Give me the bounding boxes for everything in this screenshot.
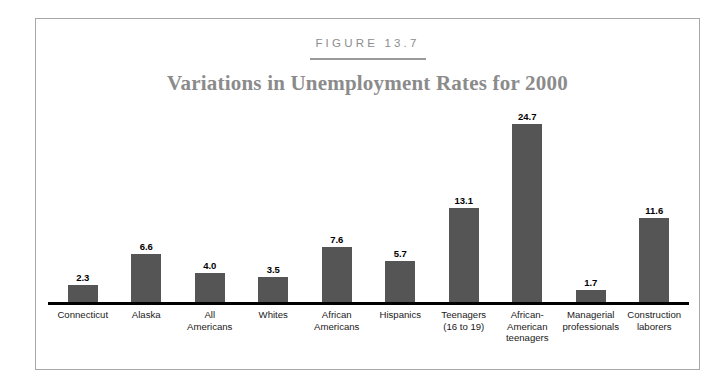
category-label: African- American teenagers bbox=[496, 309, 560, 344]
category-label: Teenagers (16 to 19) bbox=[432, 309, 496, 332]
bar-group: 13.1 bbox=[432, 114, 496, 302]
bar-group: 5.7 bbox=[369, 114, 433, 302]
bar-group: 24.7 bbox=[496, 114, 560, 302]
bar bbox=[68, 285, 98, 302]
bar-value-label: 2.3 bbox=[51, 272, 115, 283]
bar-group: 7.6 bbox=[305, 114, 369, 302]
bar bbox=[385, 261, 415, 302]
bar-value-label: 7.6 bbox=[305, 234, 369, 245]
figure-number-label: FIGURE 13.7 bbox=[36, 37, 699, 49]
category-label: Construction laborers bbox=[623, 309, 687, 332]
category-label: African Americans bbox=[305, 309, 369, 332]
bar bbox=[449, 208, 479, 302]
bar bbox=[195, 273, 225, 302]
bar bbox=[258, 277, 288, 302]
category-label: Alaska bbox=[115, 309, 179, 321]
bar bbox=[639, 218, 669, 302]
bar-value-label: 6.6 bbox=[115, 241, 179, 252]
category-label-row: ConnecticutAlaskaAll AmericansWhitesAfri… bbox=[51, 309, 686, 369]
bar-value-label: 24.7 bbox=[496, 111, 560, 122]
category-label: All Americans bbox=[178, 309, 242, 332]
x-axis-baseline bbox=[48, 302, 689, 305]
bar-chart-plot-area: 2.36.64.03.57.65.713.124.71.711.6 bbox=[51, 114, 686, 302]
bar-value-label: 1.7 bbox=[559, 277, 623, 288]
figure-divider-rule bbox=[310, 58, 426, 60]
bar-group: 3.5 bbox=[242, 114, 306, 302]
bar-value-label: 13.1 bbox=[432, 195, 496, 206]
bar-group: 11.6 bbox=[623, 114, 687, 302]
bar bbox=[322, 247, 352, 302]
bar-value-label: 3.5 bbox=[242, 264, 306, 275]
bar-group: 2.3 bbox=[51, 114, 115, 302]
bar bbox=[576, 290, 606, 302]
bar bbox=[131, 254, 161, 302]
category-label: Whites bbox=[242, 309, 306, 321]
category-label: Managerial professionals bbox=[559, 309, 623, 332]
bar-value-label: 4.0 bbox=[178, 260, 242, 271]
bar-value-label: 11.6 bbox=[623, 205, 687, 216]
bar bbox=[512, 124, 542, 302]
figure-title: Variations in Unemployment Rates for 200… bbox=[36, 71, 699, 96]
figure-frame: FIGURE 13.7 Variations in Unemployment R… bbox=[35, 18, 700, 370]
bar-group: 1.7 bbox=[559, 114, 623, 302]
category-label: Connecticut bbox=[51, 309, 115, 321]
bar-group: 6.6 bbox=[115, 114, 179, 302]
bar-group: 4.0 bbox=[178, 114, 242, 302]
category-label: Hispanics bbox=[369, 309, 433, 321]
bar-value-label: 5.7 bbox=[369, 248, 433, 259]
